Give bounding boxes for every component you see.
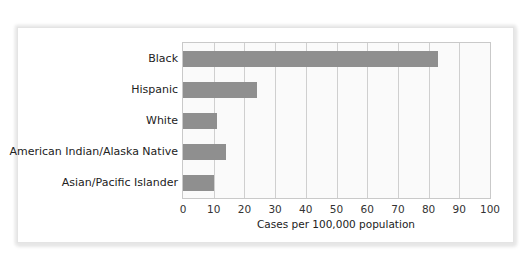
plot-area: [182, 42, 491, 199]
category-label: Hispanic: [131, 82, 178, 98]
tick-label: 50: [330, 203, 343, 215]
x-axis-label: Cases per 100,000 population: [257, 218, 415, 230]
category-label: White: [146, 113, 178, 129]
bar: [183, 113, 217, 129]
tick-label: 0: [180, 203, 187, 215]
category-label: Asian/Pacific Islander: [62, 175, 178, 191]
category-label: Black: [148, 51, 178, 67]
category-label: American Indian/Alaska Native: [9, 144, 178, 160]
tick-label: 30: [268, 203, 281, 215]
gridline: [459, 43, 460, 198]
bar: [183, 51, 438, 67]
tick-label: 80: [422, 203, 435, 215]
tick-label: 20: [238, 203, 251, 215]
tick-label: 90: [453, 203, 466, 215]
tick-label: 100: [480, 203, 500, 215]
bar: [183, 144, 226, 160]
bar: [183, 175, 214, 191]
tick-label: 60: [361, 203, 374, 215]
tick-label: 40: [299, 203, 312, 215]
tick-label: 70: [391, 203, 404, 215]
bar: [183, 82, 257, 98]
tick-label: 10: [207, 203, 220, 215]
